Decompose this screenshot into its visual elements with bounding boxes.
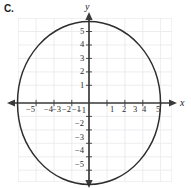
x-tick-label: 3 xyxy=(133,105,137,114)
x-axis-label: x xyxy=(180,98,184,108)
x-tick-label: −3 xyxy=(52,105,61,114)
x-tick-label: 4 xyxy=(142,105,146,114)
y-tick-label: −2 xyxy=(75,119,84,128)
y-tick-label: 1 xyxy=(80,81,84,90)
y-tick-label: −4 xyxy=(75,146,84,155)
y-tick-label: −3 xyxy=(75,133,84,142)
y-tick-label: 2 xyxy=(80,67,84,76)
coordinate-plane xyxy=(0,0,191,188)
y-tick-label: −5 xyxy=(75,160,84,169)
y-tick-label: 4 xyxy=(80,40,84,49)
x-tick-label: 5 xyxy=(156,105,160,114)
y-tick-label: −1 xyxy=(77,106,86,115)
x-tick-label: 1 xyxy=(110,105,114,114)
x-tick-label: −5 xyxy=(26,105,35,114)
y-axis-label: y xyxy=(85,2,89,12)
y-tick-label: 3 xyxy=(80,54,84,63)
x-tick-label: 2 xyxy=(122,105,126,114)
x-tick-label: −2 xyxy=(62,105,71,114)
y-tick-label: 5 xyxy=(80,27,84,36)
graph-figure: C. xyxy=(0,0,191,188)
y-axis xyxy=(85,12,92,188)
